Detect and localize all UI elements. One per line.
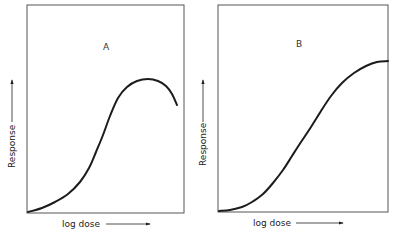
panel-a: A log dose Response — [7, 5, 184, 229]
panel-a-xlabel: log dose — [62, 219, 100, 229]
panel-a-curve — [28, 79, 177, 212]
panel-b-frame — [218, 5, 388, 212]
panel-b-curve — [219, 61, 388, 211]
panel-b-ylabel: Response — [198, 122, 208, 166]
panel-a-ylabel: Response — [7, 124, 17, 168]
panel-b-xlabel: log dose — [253, 218, 291, 228]
panel-b: B log dose Response — [198, 5, 388, 228]
panel-b-letter: B — [296, 39, 302, 49]
dose-response-figure: A log dose Response B log dose Response — [0, 0, 395, 234]
panel-a-frame — [27, 5, 184, 213]
panel-a-letter: A — [103, 42, 110, 52]
